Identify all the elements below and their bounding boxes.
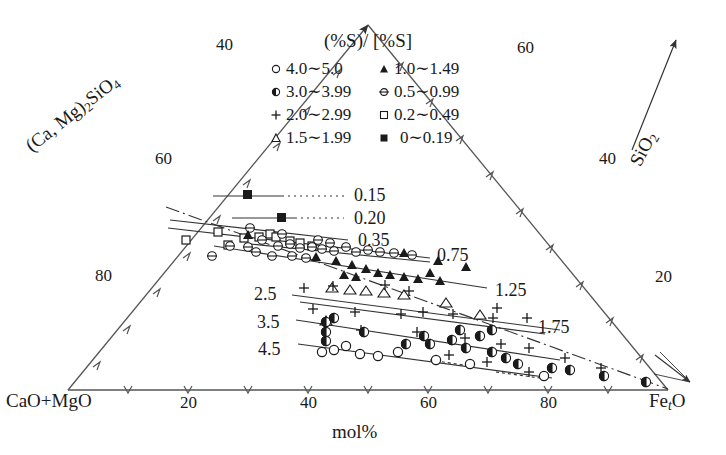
legend-item-0-5-0-99: 0.5∼0.99 — [376, 81, 468, 102]
legend-label: 1.5∼1.99 — [286, 127, 351, 148]
points-half-filled-circle — [321, 313, 650, 386]
axis-bottom — [68, 386, 668, 393]
open-triangle-icon — [268, 131, 284, 145]
ternary-diagram-root: 20 40 60 80 40 60 80 60 40 20 CaO+MgO Fe… — [0, 0, 726, 455]
legend-title: (%S)/ [%S] — [324, 30, 412, 51]
contour-label-0-75: 0.75 — [437, 246, 469, 264]
plus-icon — [268, 108, 284, 122]
contour-label-1-75: 1.75 — [538, 318, 570, 336]
open-square-icon — [376, 108, 392, 122]
contour-label-0-20: 0.20 — [354, 209, 386, 227]
legend-label: 3.0∼3.99 — [286, 81, 351, 102]
dotted-circle-icon — [376, 85, 392, 99]
contour-label-0-35: 0.35 — [358, 231, 390, 249]
left-tick-60: 60 — [155, 150, 172, 167]
legend-row: 3.0∼3.99 0.5∼0.99 — [268, 80, 468, 103]
contour-label-0-15: 0.15 — [354, 186, 386, 204]
legend-item-2-0-2-99: 2.0∼2.99 — [268, 104, 376, 125]
feto-suffix: O — [672, 390, 686, 411]
legend-label: 2.0∼2.99 — [286, 104, 351, 125]
bottom-tick-40: 40 — [300, 394, 317, 411]
contour-label-2-5: 2.5 — [254, 285, 277, 303]
legend-item-4-0-5-0: 4.0∼5.0 — [268, 58, 376, 79]
filled-square-icon — [376, 131, 392, 145]
half-filled-circle-icon — [268, 85, 284, 99]
legend-label: 4.0∼5.0 — [286, 58, 343, 79]
legend-item-0-2-0-49: 0.2∼0.49 — [376, 104, 468, 125]
legend: (%S)/ [%S] 4.0∼5.0 1.0∼1.49 3.0∼ — [268, 30, 468, 149]
legend-row: 2.0∼2.99 0.2∼0.49 — [268, 103, 468, 126]
iso-line-group — [166, 196, 668, 389]
feto-prefix: Fe — [649, 390, 668, 411]
bottom-tick-80: 80 — [540, 394, 557, 411]
legend-item-3-0-3-99: 3.0∼3.99 — [268, 81, 376, 102]
right-tick-60: 60 — [517, 39, 534, 56]
legend-title-wrap: (%S)/ [%S] — [268, 30, 468, 52]
legend-label: 0.2∼0.49 — [394, 104, 459, 125]
contour-label-3-5: 3.5 — [257, 313, 280, 331]
axis-title-molpercent: mol% — [332, 422, 377, 441]
legend-item-1-5-1-99: 1.5∼1.99 — [268, 127, 376, 148]
legend-row: 4.0∼5.0 1.0∼1.49 — [268, 57, 468, 80]
bottom-tick-60: 60 — [420, 394, 437, 411]
vertex-label-feto: FetO — [649, 391, 686, 413]
filled-triangle-icon — [376, 62, 392, 76]
right-tick-20: 20 — [655, 268, 672, 285]
bottom-tick-20: 20 — [180, 394, 197, 411]
left-tick-80: 80 — [95, 267, 112, 284]
legend-row: 1.5∼1.99 0∼0.19 — [268, 126, 468, 149]
legend-item-0-0-19: 0∼0.19 — [376, 127, 468, 148]
points-filled-square — [243, 190, 286, 222]
left-tick-40: 40 — [216, 36, 233, 53]
legend-label: 1.0∼1.49 — [394, 58, 459, 79]
vertex-label-cao-mgo: CaO+MgO — [6, 391, 92, 410]
legend-label: 0∼0.19 — [400, 127, 453, 148]
right-tick-40: 40 — [599, 150, 616, 167]
legend-label: 0.5∼0.99 — [394, 81, 459, 102]
contour-label-1-25: 1.25 — [495, 281, 527, 299]
legend-item-1-0-1-49: 1.0∼1.49 — [376, 58, 468, 79]
open-circle-icon — [268, 62, 284, 76]
contour-label-4-5: 4.5 — [258, 340, 281, 358]
points-open-triangle — [320, 283, 486, 325]
